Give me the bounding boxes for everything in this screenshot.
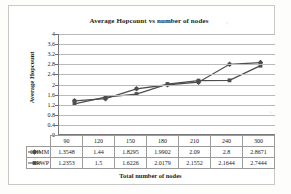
data-cell: 2.09 [179, 147, 211, 158]
y-tick-label: 3.6 [48, 41, 56, 47]
column-header: 240 [211, 136, 243, 147]
table-row: RWP 1.23531.51.62262.01792.15522.16442.7… [27, 158, 275, 169]
gridline [59, 64, 275, 65]
gridline [59, 95, 275, 96]
data-table: 90120150180210240300 CHMM 1.35481.441.82… [26, 135, 275, 169]
gridline [59, 105, 275, 106]
legend-item-chmm: CHMM [27, 147, 51, 158]
gridline [59, 115, 275, 116]
data-cell: 1.6226 [115, 158, 147, 169]
y-tick-label: 0.8 [48, 112, 56, 118]
data-cell: 1.44 [83, 147, 115, 158]
data-point-marker [104, 95, 108, 99]
column-header: 120 [83, 136, 115, 147]
column-header: 90 [51, 136, 83, 147]
y-axis-title: Average Hopcount [28, 38, 35, 118]
gridline [59, 44, 275, 45]
table-row-headers: 90120150180210240300 [27, 136, 275, 147]
plot-area [58, 34, 275, 135]
x-axis-title: Total number of nodes [26, 172, 275, 179]
data-point-marker [197, 79, 201, 83]
gridline [59, 74, 275, 75]
gridline [59, 85, 275, 86]
y-tick-label: 1.6 [48, 92, 56, 98]
data-cell: 2.0179 [147, 158, 179, 169]
data-cell: 1.9902 [147, 147, 179, 158]
chart-title: Average Hopcount vs number of nodes [49, 17, 249, 25]
y-tick-label: 3.2 [48, 51, 56, 57]
y-tick-label: 1.2 [48, 102, 56, 108]
gridline [59, 34, 275, 35]
data-cell: 1.8295 [115, 147, 147, 158]
table-row: CHMM 1.35481.441.82951.99022.092.82.8671 [27, 147, 275, 158]
data-cell: 2.1552 [179, 158, 211, 169]
y-tick-label: 0.4 [48, 122, 56, 128]
data-point-marker [228, 78, 232, 82]
legend-marker-rwp-icon [28, 160, 41, 167]
column-header: 300 [243, 136, 275, 147]
data-cell: 2.1644 [211, 158, 243, 169]
gridline [59, 54, 275, 55]
y-tick-label: 2.4 [48, 71, 56, 77]
chart-frame: Average Hopcount vs number of nodes Aver… [8, 5, 275, 185]
y-axis-tick-labels: 43.63.22.82.421.61.20.80.40 [35, 33, 57, 136]
data-cell: 1.2353 [51, 158, 83, 169]
gridline [59, 125, 275, 126]
y-tick-label: 2.8 [48, 61, 56, 67]
column-header: 180 [147, 136, 179, 147]
data-point-marker [134, 86, 139, 91]
scanned-figure: Average Hopcount vs number of nodes Aver… [0, 0, 291, 194]
data-cell: 1.3548 [51, 147, 83, 158]
column-header: 210 [179, 136, 211, 147]
data-cell: 1.5 [83, 158, 115, 169]
column-header: 150 [115, 136, 147, 147]
data-cell: 2.8 [211, 147, 243, 158]
legend-item-rwp: RWP [27, 158, 51, 169]
data-cell: 2.8671 [243, 147, 275, 158]
table-corner-cell [27, 136, 51, 147]
legend-marker-chmm-icon [28, 149, 41, 156]
data-cell: 2.7444 [243, 158, 275, 169]
